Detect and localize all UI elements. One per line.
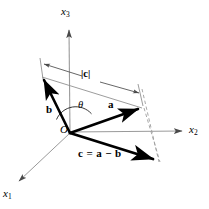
magnitude-dimension-group [44,64,139,93]
vector-a-arrow [70,109,138,133]
origin-label: O [60,124,68,135]
axis-x1-line [19,133,70,181]
dimension-line-c-left [44,64,82,76]
equation-label-c: c = a − b [78,148,122,159]
dimension-line-c-right [100,82,139,93]
dimension-extension-left [40,58,43,79]
vector-label-a: a [108,99,114,110]
axis-label-x1: x1 [3,188,12,200]
translated-c-line [42,77,142,108]
axis-x3-line [69,30,70,133]
vector-diagram-figure: x3 x2 x1 b a O θ |c| c = a − b [0,0,209,209]
vector-label-b: b [46,104,52,115]
vector-diagram-canvas [0,0,209,209]
axis-label-x2: x2 [189,124,198,136]
dashed-projection-group [142,89,160,162]
axis-label-x1-sub: 1 [8,192,12,201]
dimension-extension-right [138,84,143,106]
magnitude-label-c: |c| [81,69,90,80]
axis-label-x3: x3 [61,6,70,18]
axis-label-x3-sub: 3 [66,10,70,19]
axis-x2-line [70,131,182,132]
dashed-line-c-tip-to-plane [144,108,160,162]
axis-label-x2-sub: 2 [194,128,198,137]
angle-label-theta: θ [78,100,83,111]
